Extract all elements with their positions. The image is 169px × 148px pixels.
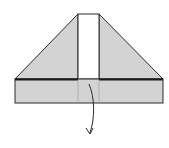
- right-triangle-flap: [99, 14, 163, 79]
- arrowhead-icon: [86, 128, 93, 134]
- center-white-strip: [78, 14, 99, 79]
- bottom-band: [15, 79, 163, 103]
- origami-diagram: [0, 0, 169, 148]
- left-triangle-flap: [15, 14, 78, 79]
